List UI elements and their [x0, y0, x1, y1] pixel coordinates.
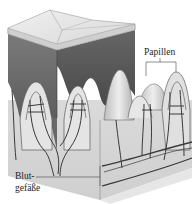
- skin-cross-section-illustration: Papillen Blut- gefäße: [0, 0, 196, 204]
- papillae-label: Papillen: [144, 47, 175, 58]
- blood-vessels-label-line2: gefäße: [15, 183, 40, 194]
- blood-vessels-label-line1: Blut-: [15, 171, 35, 182]
